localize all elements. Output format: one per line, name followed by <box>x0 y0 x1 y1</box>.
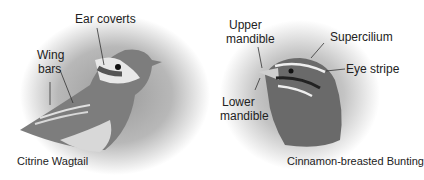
label-wing-bars-line1: Wing <box>37 48 64 62</box>
label-ear-coverts: Ear coverts <box>75 12 136 26</box>
label-upper-mandible-line2: mandible <box>226 32 275 46</box>
caption-cinnamon-breasted-bunting: Cinnamon-breasted Bunting <box>287 155 424 167</box>
label-eye-stripe: Eye stripe <box>346 62 399 76</box>
label-lower-mandible-line1: Lower <box>222 95 255 109</box>
label-upper-mandible-line1: Upper <box>229 18 262 32</box>
label-supercilium: Supercilium <box>330 30 393 44</box>
label-wing-bars-line2: bars <box>38 62 61 76</box>
label-lower-mandible-line2: mandible <box>220 109 269 123</box>
caption-citrine-wagtail: Citrine Wagtail <box>17 155 88 167</box>
